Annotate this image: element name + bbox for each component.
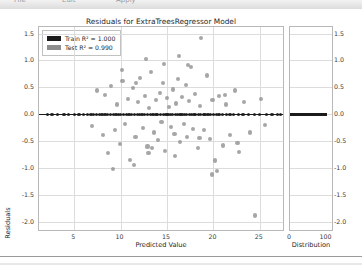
data-point-train — [62, 113, 65, 116]
data-point-test — [167, 105, 171, 109]
gridline-horizontal — [290, 87, 332, 88]
data-point-test — [131, 86, 135, 90]
data-point-test — [106, 151, 110, 155]
data-point-test — [123, 122, 127, 126]
toolbar-item-file[interactable]: File — [14, 0, 26, 4]
data-point-test — [215, 169, 219, 173]
data-point-test — [237, 150, 241, 154]
y-tick-label-right: -0.5 — [334, 137, 346, 144]
data-point-train — [46, 113, 49, 116]
distribution-axis-label: Distribution — [289, 241, 333, 249]
data-point-train — [241, 113, 244, 116]
data-point-train — [265, 113, 268, 116]
data-point-test — [136, 100, 140, 104]
gridline-horizontal — [290, 168, 332, 169]
data-point-test — [162, 62, 166, 66]
data-point-test — [185, 135, 189, 139]
data-point-test — [120, 79, 124, 83]
data-point-test — [193, 92, 197, 96]
x-axis-label: Predicted Value — [38, 241, 284, 249]
data-point-test — [259, 97, 263, 101]
data-point-test — [171, 87, 175, 91]
data-point-test — [202, 128, 206, 132]
data-point-test — [90, 124, 94, 128]
data-point-train — [270, 113, 273, 116]
gridline-horizontal — [39, 168, 283, 169]
data-point-test — [228, 133, 232, 137]
x-tick-label: 10 — [116, 233, 124, 240]
y-tick-label: 1.5 — [24, 29, 34, 36]
data-point-test — [174, 101, 178, 105]
data-point-test — [152, 130, 156, 134]
data-point-test — [263, 123, 267, 127]
data-point-test — [138, 76, 142, 80]
legend-entry-test: Test R² = 0.990 — [47, 43, 115, 52]
gridline-vertical — [74, 27, 75, 230]
data-point-test — [101, 133, 105, 137]
distribution-axes — [289, 26, 333, 231]
data-point-test — [172, 132, 176, 136]
y-tick-label-right: -2.0 — [334, 217, 346, 224]
test-swatch — [47, 45, 61, 50]
data-point-test — [161, 81, 165, 85]
gridline-horizontal — [39, 60, 283, 61]
legend-entry-train: Train R² = 1.000 — [47, 34, 115, 43]
data-point-test — [208, 137, 212, 141]
data-point-test — [133, 135, 137, 139]
data-point-test — [132, 163, 136, 167]
x-axis-tick-labels: 510152025 — [38, 231, 284, 241]
train-swatch — [47, 36, 61, 41]
gridline-horizontal — [290, 195, 332, 196]
data-point-test — [150, 146, 154, 150]
data-point-test — [221, 143, 225, 147]
data-point-train — [67, 113, 70, 116]
data-point-train — [258, 113, 261, 116]
screenshot-root: File Edit Apply Residuals for ExtraTrees… — [0, 0, 362, 265]
data-point-test — [128, 158, 132, 162]
data-point-test — [217, 94, 221, 98]
data-point-train — [247, 113, 250, 116]
data-point-test — [235, 141, 239, 145]
data-point-test — [198, 104, 202, 108]
x-tick-label: 15 — [162, 233, 170, 240]
chart-title: Residuals for ExtraTreesRegressor Model — [38, 17, 284, 26]
data-point-test — [145, 144, 149, 148]
data-point-test — [253, 213, 257, 217]
toolbar-item-apply[interactable]: Apply — [116, 0, 136, 4]
data-point-test — [178, 140, 182, 144]
residuals-figure: Residuals for ExtraTreesRegressor Model … — [0, 9, 362, 256]
gridline-horizontal — [39, 222, 283, 223]
data-point-test — [113, 128, 117, 132]
data-point-test — [141, 126, 145, 130]
data-point-test — [180, 95, 184, 99]
data-point-train — [77, 113, 80, 116]
data-point-test — [111, 167, 115, 171]
data-point-test — [210, 172, 214, 176]
data-point-test — [199, 36, 203, 40]
gridline-horizontal — [290, 222, 332, 223]
data-point-train — [279, 113, 282, 116]
data-point-test — [210, 98, 214, 102]
data-point-train — [73, 113, 76, 116]
data-point-test — [196, 146, 200, 150]
distribution-bar — [290, 113, 327, 116]
data-point-test — [205, 73, 209, 77]
gridline-vertical — [213, 27, 214, 230]
gridline-horizontal — [39, 87, 283, 88]
data-point-test — [134, 81, 138, 85]
y-tick-label-right: 0.5 — [334, 83, 344, 90]
gridline-horizontal — [39, 195, 283, 196]
data-point-test — [242, 100, 246, 104]
data-point-test — [197, 136, 201, 140]
data-point-train — [237, 113, 240, 116]
data-point-test — [120, 68, 124, 72]
data-point-test — [126, 97, 130, 101]
y-tick-label-right: 1.0 — [334, 56, 344, 63]
data-point-train — [253, 113, 256, 116]
data-point-test — [187, 99, 191, 103]
data-point-test — [149, 70, 153, 74]
y-tick-label: -0.5 — [22, 137, 34, 144]
toolbar-item-edit[interactable]: Edit — [62, 0, 76, 4]
y-tick-label: 1.0 — [24, 56, 34, 63]
data-point-test — [184, 83, 188, 87]
